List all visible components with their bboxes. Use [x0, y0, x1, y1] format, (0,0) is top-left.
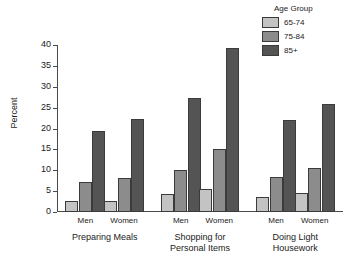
y-axis-title: Percent — [9, 83, 19, 143]
y-tick-mark — [53, 149, 57, 150]
bar-chart: Age Group 65-74 75-84 85+ Percent 051015… — [0, 0, 351, 263]
bar — [104, 201, 117, 212]
subgroup-label: Women — [110, 216, 137, 226]
y-tick-mark — [53, 170, 57, 171]
group-label-line: Doing Light — [273, 232, 319, 243]
y-tick-label: 25 — [41, 102, 51, 113]
legend-swatch-75-84 — [262, 31, 279, 42]
legend-item: 75-84 — [262, 30, 348, 43]
subgroup-label: Men — [173, 216, 189, 226]
group-label-line: Preparing Meals — [72, 232, 138, 243]
bar — [308, 168, 321, 212]
bar — [131, 119, 144, 212]
y-tick-mark — [53, 66, 57, 67]
y-tick-mark — [53, 212, 57, 213]
group-label-line: Shopping for — [170, 232, 230, 243]
bar — [79, 182, 92, 212]
bar — [199, 189, 212, 212]
legend-item: 65-74 — [262, 16, 348, 29]
y-tick-label: 35 — [41, 60, 51, 71]
bar — [295, 193, 308, 212]
y-tick-mark — [53, 45, 57, 46]
group-label: Preparing Meals — [72, 232, 138, 243]
y-tick-label: 10 — [41, 164, 51, 175]
bar — [118, 178, 131, 212]
y-tick-mark — [53, 129, 57, 130]
y-tick-label: 15 — [41, 143, 51, 154]
bar — [322, 104, 335, 212]
group-label: Shopping forPersonal Items — [170, 232, 230, 254]
group-label: Doing LightHousework — [273, 232, 319, 254]
bar — [226, 48, 239, 212]
y-tick-mark — [53, 87, 57, 88]
legend-title: Age Group — [274, 4, 348, 14]
subgroup-label: Women — [301, 216, 328, 226]
y-tick-mark — [53, 108, 57, 109]
plot-area: 0510152025303540 — [57, 45, 343, 212]
group-label-line: Personal Items — [170, 243, 230, 254]
bar — [161, 194, 174, 212]
group-label-line: Housework — [273, 243, 319, 254]
legend-label-75-84: 75-84 — [284, 32, 304, 42]
bar — [65, 201, 78, 212]
bar — [256, 197, 269, 212]
y-tick-label: 30 — [41, 81, 51, 92]
y-tick-label: 40 — [41, 39, 51, 50]
subgroup-label: Men — [268, 216, 284, 226]
y-tick-label: 5 — [46, 185, 51, 196]
subgroup-label: Women — [206, 216, 233, 226]
y-tick-mark — [53, 191, 57, 192]
subgroup-label: Men — [78, 216, 94, 226]
y-tick-label: 20 — [41, 123, 51, 134]
y-tick-label: 0 — [46, 206, 51, 217]
bar — [174, 170, 187, 212]
legend-label-65-74: 65-74 — [284, 18, 304, 28]
bar — [270, 177, 283, 212]
bar — [213, 149, 226, 212]
legend-swatch-65-74 — [262, 17, 279, 28]
y-axis-line — [57, 45, 58, 212]
